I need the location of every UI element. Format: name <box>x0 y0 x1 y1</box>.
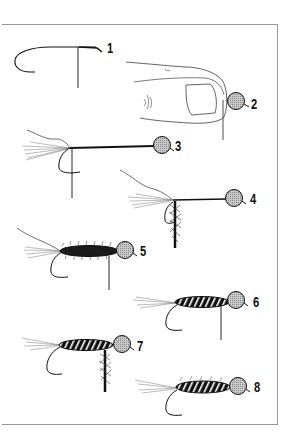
step-7-ribbed-body-dubbing <box>22 336 134 393</box>
step-number-2: 2 <box>251 97 257 111</box>
step-4-dubbing-loop <box>120 170 246 248</box>
step-number-1: 1 <box>107 41 113 55</box>
fly-tying-illustration <box>0 0 289 445</box>
illustration-page: 1 2 3 4 5 6 7 8 <box>0 0 289 445</box>
step-6-ribbed-body <box>133 292 248 341</box>
step-8-finished-fly <box>135 376 250 415</box>
step-number-5: 5 <box>140 244 146 258</box>
step-number-6: 6 <box>253 295 259 309</box>
step-number-8: 8 <box>254 380 260 394</box>
step-number-7: 7 <box>137 339 143 353</box>
step-2-finger-bead <box>126 62 249 140</box>
step-number-4: 4 <box>250 192 256 206</box>
step-1-hook <box>15 47 102 88</box>
step-3-tail-thread <box>22 130 174 198</box>
step-5-dubbed-body <box>17 228 137 290</box>
step-number-3: 3 <box>175 139 181 153</box>
